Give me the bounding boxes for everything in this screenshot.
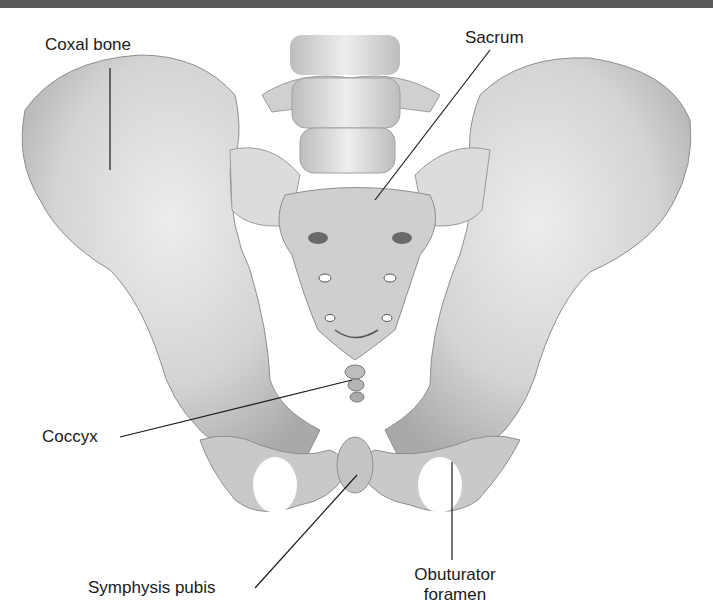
label-obturator-foramen: Obuturator foramen <box>405 565 505 605</box>
lumbar-vertebra <box>262 35 440 173</box>
label-sacrum: Sacrum <box>465 28 524 48</box>
pelvis-illustration <box>0 0 713 607</box>
sacrum <box>279 188 436 361</box>
label-coxal-bone: Coxal bone <box>45 35 131 55</box>
symphysis-pubis <box>337 437 373 493</box>
label-symphysis-pubis: Symphysis pubis <box>88 578 216 598</box>
coccyx <box>345 365 365 402</box>
label-obturator-foramen-line1: Obuturator <box>405 565 505 585</box>
right-coxal-bone <box>362 58 691 513</box>
label-obturator-foramen-line2: foramen <box>405 585 505 605</box>
label-coccyx: Coccyx <box>42 427 98 447</box>
